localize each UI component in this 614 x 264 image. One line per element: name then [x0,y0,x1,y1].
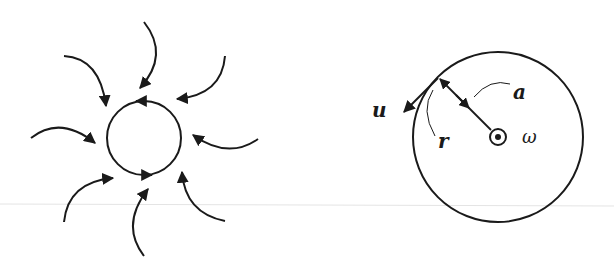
label-r: r [438,129,450,153]
radius-a-leader [474,83,510,97]
rotating-disk-diagram [404,52,583,222]
inflow-arrow-sw-icon [64,178,113,222]
label-u: u [372,98,387,122]
velocity-u-arrow-icon [404,78,438,112]
vortex-core-circle [107,101,181,175]
diagram-canvas: u r a ω [0,0,614,264]
baseline-line [0,204,614,206]
inflow-arrow-ne-icon [177,56,225,99]
label-omega: ω [522,126,537,147]
inflow-arrow-w-icon [31,128,95,143]
radius-arrow-mid-icon [456,95,469,108]
inflow-arrow-nw-icon [64,56,106,106]
radius-r-leader [427,90,435,136]
vortex-diagram [31,22,258,256]
label-a: a [513,80,526,104]
inflow-arrow-n-icon [140,22,156,88]
inflow-arrow-s-icon [133,189,148,256]
omega-center-dot-icon [495,134,501,140]
inflow-arrow-se-icon [182,172,225,221]
inflow-arrow-e-icon [193,135,258,149]
